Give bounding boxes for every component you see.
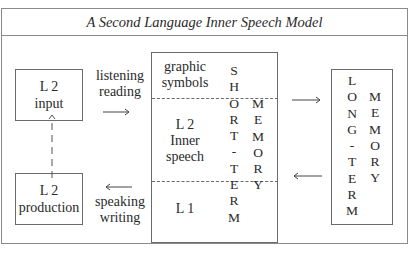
letter: R <box>345 187 359 203</box>
letter: M <box>368 89 382 105</box>
output-channel-label: speaking writing <box>92 194 148 226</box>
letter: M <box>251 129 265 145</box>
reading-label: reading <box>92 84 148 100</box>
long-term-memory-box: L O N G - T E R M M E M O R Y <box>331 69 393 225</box>
letter: M <box>251 96 265 112</box>
letter: S <box>227 63 241 79</box>
letter: O <box>345 89 359 105</box>
letter: T <box>227 161 241 177</box>
letter: - <box>227 144 241 160</box>
right-arrow-icon <box>292 96 322 104</box>
listening-label: listening <box>92 68 148 84</box>
letter: O <box>227 96 241 112</box>
letter: H <box>227 79 241 95</box>
l2-input-line1: L 2 <box>16 78 82 95</box>
letter: N <box>345 106 359 122</box>
l2-production-line2: production <box>16 199 82 216</box>
inner-label: Inner <box>154 133 216 149</box>
l2-production-box: L 2 production <box>15 173 83 225</box>
short-term-vertical-text: S H O R T - T E R M <box>227 63 241 226</box>
speaking-label: speaking <box>92 194 148 210</box>
l1-label: L 1 <box>154 201 216 217</box>
dashed-up-arrow-icon <box>49 114 55 178</box>
long-term-vertical-text: L O N G - T E R M <box>345 73 359 220</box>
right-arrow-icon <box>103 108 131 116</box>
letter: R <box>368 154 382 170</box>
letter: - <box>345 138 359 154</box>
letter: O <box>251 145 265 161</box>
memory-vertical-text: M E M O R Y <box>368 89 382 187</box>
letter: E <box>251 112 265 128</box>
speech-label: speech <box>154 149 216 165</box>
diagram-title: A Second Language Inner Speech Model <box>2 9 407 36</box>
left-arrow-icon <box>292 172 322 180</box>
letter: O <box>368 138 382 154</box>
l2-production-line1: L 2 <box>16 182 82 199</box>
memory-vertical-text: M E M O R Y <box>251 96 265 194</box>
letter: R <box>227 112 241 128</box>
letter: R <box>251 161 265 177</box>
letter: M <box>345 203 359 219</box>
l2-label: L 2 <box>154 117 216 133</box>
letter: G <box>345 122 359 138</box>
letter: E <box>368 105 382 121</box>
letter: L <box>345 73 359 89</box>
letter: M <box>368 122 382 138</box>
l2-inner-speech-section: L 2 Inner speech <box>154 117 216 165</box>
graphic-symbols-section: graphic symbols <box>154 59 216 91</box>
letter: M <box>227 210 241 226</box>
symbols-label: symbols <box>154 75 216 91</box>
l1-section: L 1 <box>154 201 216 217</box>
letter: R <box>227 193 241 209</box>
input-channel-label: listening reading <box>92 68 148 100</box>
letter: Y <box>251 177 265 193</box>
letter: T <box>345 154 359 170</box>
letter: E <box>345 171 359 187</box>
writing-label: writing <box>92 210 148 226</box>
letter: T <box>227 128 241 144</box>
graphic-label: graphic <box>154 59 216 75</box>
short-term-memory-box: graphic symbols L 2 Inner speech L 1 S H… <box>151 52 278 243</box>
left-arrow-icon <box>104 183 132 191</box>
l2-input-line2: input <box>16 95 82 112</box>
letter: E <box>227 177 241 193</box>
letter: Y <box>368 170 382 186</box>
